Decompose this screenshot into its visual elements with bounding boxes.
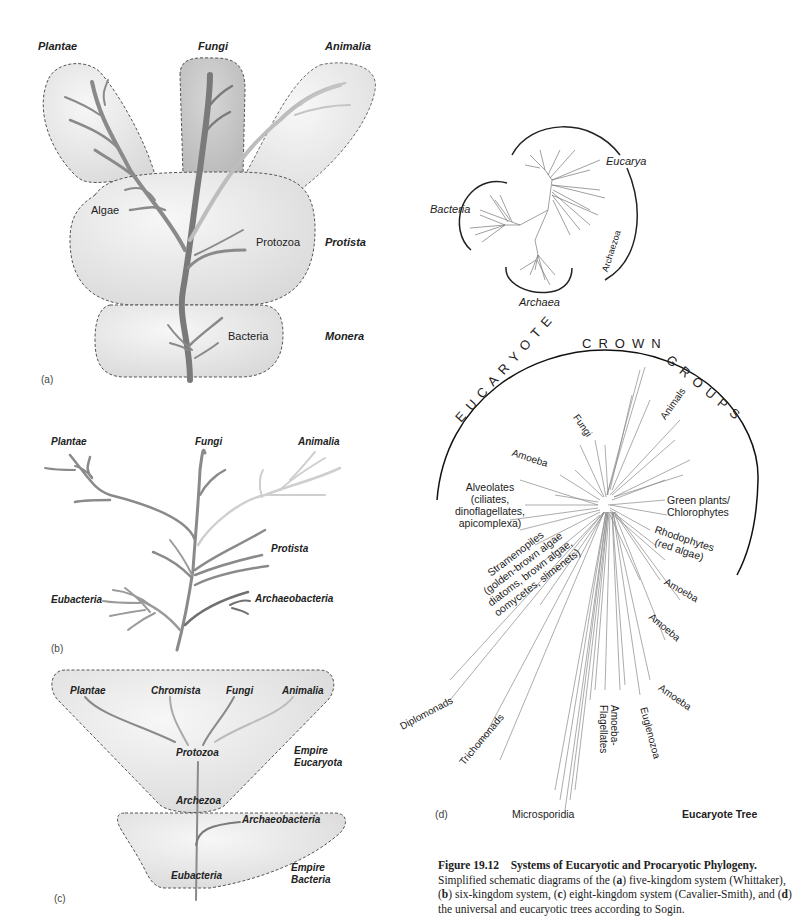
label-c-animalia: Animalia bbox=[282, 685, 324, 696]
label-b-animalia: Animalia bbox=[298, 436, 340, 447]
label-bacteria: Bacteria bbox=[228, 330, 268, 342]
label-b-eubacteria: Eubacteria bbox=[51, 594, 102, 605]
panel-tag-b: (b) bbox=[51, 643, 63, 654]
label-protozoa: Protozoa bbox=[256, 236, 300, 248]
label-archaea: Archaea bbox=[519, 296, 560, 308]
label-b-fungi: Fungi bbox=[195, 436, 222, 447]
label-b-archaeobacteria: Archaeobacteria bbox=[255, 593, 333, 604]
label-c-fungi: Fungi bbox=[226, 685, 253, 696]
caption-title: Systems of Eucaryotic and Procaryotic Ph… bbox=[511, 859, 757, 871]
arc-title-part2: CROWN bbox=[582, 336, 668, 351]
label-microsporidia: Microsporidia bbox=[512, 808, 574, 820]
eucaryote-tree-title: Eucaryote Tree bbox=[682, 808, 757, 820]
alveolates-line-2: (ciliates, bbox=[440, 493, 540, 505]
label-animalia: Animalia bbox=[325, 40, 371, 52]
label-protista: Protista bbox=[325, 236, 366, 248]
label-empire-eucaryota-2: Eucaryota bbox=[294, 757, 342, 768]
label-c-archezoa: Archezoa bbox=[176, 795, 221, 806]
label-empire-eucaryota-1: Empire bbox=[294, 745, 328, 756]
panel-tag-d: (d) bbox=[435, 808, 448, 820]
universal-tree bbox=[470, 150, 605, 285]
label-green-plants: Green plants/ Chlorophytes bbox=[667, 494, 730, 518]
label-c-chromista: Chromista bbox=[151, 685, 200, 696]
label-u-bacteria: Bacteria bbox=[430, 203, 470, 215]
label-c-archaeobacteria: Archaeobacteria bbox=[242, 814, 320, 825]
label-empire-bacteria-1: Empire bbox=[291, 862, 325, 873]
label-fungi: Fungi bbox=[198, 40, 228, 52]
label-empire-bacteria-2: Bacteria bbox=[291, 874, 330, 885]
label-b-protista: Protista bbox=[271, 543, 308, 554]
green-plants-line-2: Chlorophytes bbox=[667, 506, 730, 518]
alveolates-line-4: apicomplexa) bbox=[440, 517, 540, 529]
label-plantae: Plantae bbox=[38, 40, 77, 52]
label-c-plantae: Plantae bbox=[70, 685, 106, 696]
caption-body-1: Simplified schematic diagrams of the ( bbox=[438, 874, 617, 886]
panel-tag-c: (c) bbox=[54, 893, 66, 904]
label-c-protozoa: Protozoa bbox=[176, 747, 219, 758]
label-algae: Algae bbox=[91, 204, 119, 216]
label-amoeba-flagellates: Amoeba- Flagellates bbox=[598, 705, 620, 753]
label-eucarya: Eucarya bbox=[606, 155, 646, 167]
label-b-plantae: Plantae bbox=[51, 436, 87, 447]
caption-body-4: ) eight-kingdom system (Cavalier-Smith),… bbox=[563, 888, 782, 900]
green-plants-line-1: Green plants/ bbox=[667, 494, 730, 506]
amoeba-flagellates-line-1: Amoeba- bbox=[609, 705, 620, 753]
caption-figure-number: Figure 19.12 bbox=[438, 859, 499, 871]
caption-body-3: ) six-kingdom system, ( bbox=[448, 888, 557, 900]
figure-caption: Figure 19.12 Systems of Eucaryotic and P… bbox=[438, 858, 793, 916]
label-alveolates: Alveolates (ciliates, dinoflagellates, a… bbox=[440, 481, 540, 529]
alveolates-line-3: dinoflagellates, bbox=[440, 505, 540, 517]
plantae-bubble bbox=[43, 64, 155, 183]
label-c-eubacteria: Eubacteria bbox=[171, 870, 222, 881]
label-monera: Monera bbox=[325, 330, 364, 342]
panel-tag-a: (a) bbox=[41, 374, 53, 385]
amoeba-flagellates-line-2: Flagellates bbox=[598, 705, 609, 753]
animalia-bubble bbox=[245, 63, 375, 190]
alveolates-line-1: Alveolates bbox=[440, 481, 540, 493]
